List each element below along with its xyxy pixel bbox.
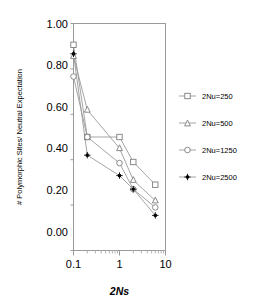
x-tick-label: 10 <box>159 258 171 270</box>
legend-circle-icon <box>185 147 191 153</box>
y-tick-label: 0.80 <box>47 59 68 71</box>
x-axis-title: 2Ns <box>109 285 129 297</box>
x-tick-label: 0.1 <box>66 258 81 270</box>
y-tick-label: 0.40 <box>47 142 68 154</box>
y-tick-label: 0.20 <box>47 184 68 196</box>
legend-label: 2Nu=250 <box>202 92 233 101</box>
x-tick-label: 1 <box>116 258 122 270</box>
legend-label: 2Nu=2500 <box>202 173 237 182</box>
y-tick-label: 0.60 <box>47 101 68 113</box>
legend-square-icon <box>185 93 190 98</box>
legend-label: 2Nu=500 <box>202 119 233 128</box>
legend-label: 2Nu=1250 <box>202 146 237 155</box>
y-axis-title: # Polymorphic Sites/ Neutral Expectation <box>15 69 24 205</box>
chart-figure: 1.00 0.80 0.60 0.40 0.20 0.00 <box>0 0 255 305</box>
y-tick-label: 1.00 <box>47 18 68 30</box>
y-tick-label: 0.00 <box>47 226 68 238</box>
